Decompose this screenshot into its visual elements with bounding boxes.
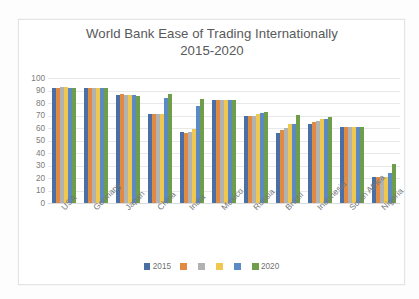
y-axis-tick-80: 80: [17, 99, 45, 108]
bar-group-usa: [48, 78, 80, 203]
y-axis-tick-0: 0: [17, 199, 45, 208]
legend-swatch-icon: [144, 263, 151, 270]
bar-usa-s6[interactable]: [72, 88, 76, 203]
chart-title-line1: World Bank Ease of Trading International…: [86, 26, 338, 41]
y-axis-tick-30: 30: [17, 161, 45, 170]
x-axis: USAGermanyJapanChinaIndiaMexicoRussiaBra…: [48, 205, 400, 261]
legend-item-series-4[interactable]: [216, 263, 225, 270]
chart-page: World Bank Ease of Trading International…: [0, 0, 419, 299]
bar-china-s6[interactable]: [168, 94, 172, 203]
y-axis-tick-60: 60: [17, 124, 45, 133]
bar-india-s6[interactable]: [200, 99, 204, 203]
y-axis: 1009080706050403020100: [17, 72, 45, 209]
bar-group-mexico: [208, 78, 240, 203]
y-axis-tick-20: 20: [17, 174, 45, 183]
bar-group-russia: [240, 78, 272, 203]
legend-item-2015[interactable]: 2015: [144, 262, 171, 271]
legend-swatch-icon: [252, 263, 259, 270]
bar-japan-s6[interactable]: [136, 96, 140, 204]
bar-group-india: [176, 78, 208, 203]
chart-legend: 20152020: [18, 262, 405, 271]
y-axis-tick-90: 90: [17, 86, 45, 95]
legend-item-series-2[interactable]: [180, 263, 189, 270]
y-axis-tick-100: 100: [17, 74, 45, 83]
bar-group-indonesia: [304, 78, 336, 203]
bar-group-brazil: [272, 78, 304, 203]
legend-swatch-icon: [234, 263, 241, 270]
legend-swatch-icon: [180, 263, 187, 270]
legend-item-series-5[interactable]: [234, 263, 243, 270]
y-axis-tick-40: 40: [17, 149, 45, 158]
legend-label: 2015: [153, 262, 171, 271]
legend-item-2020[interactable]: 2020: [252, 262, 279, 271]
y-axis-tick-70: 70: [17, 111, 45, 120]
legend-label: 2020: [261, 262, 279, 271]
bar-germany-s6[interactable]: [104, 88, 108, 203]
legend-swatch-icon: [198, 263, 205, 270]
bar-group-china: [144, 78, 176, 203]
legend-item-series-3[interactable]: [198, 263, 207, 270]
y-axis-tick-10: 10: [17, 186, 45, 195]
chart-title: World Bank Ease of Trading International…: [30, 25, 394, 59]
chart-title-line2: 2015-2020: [30, 42, 394, 59]
legend-swatch-icon: [216, 263, 223, 270]
y-axis-tick-50: 50: [17, 136, 45, 145]
bar-group-germany: [80, 78, 112, 203]
